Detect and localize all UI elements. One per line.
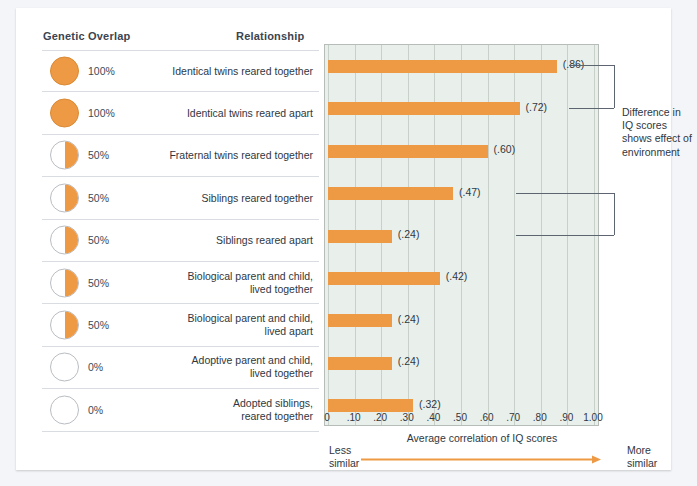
figure-card: Genetic Overlap Relationship 100%Identic…	[16, 8, 671, 470]
bracket-siblings	[16, 8, 697, 486]
bracket-line	[516, 235, 614, 236]
bracket-line	[516, 193, 614, 194]
bracket-line	[614, 193, 615, 235]
